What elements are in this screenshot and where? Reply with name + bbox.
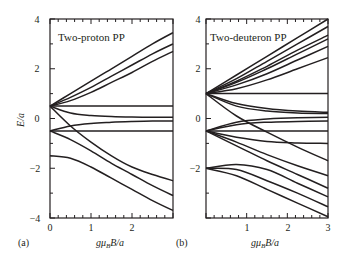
panel-a-ytick-4: 4 [35,14,40,25]
energy-level-figure: Two-proton PP 4 2 0 −2 −4 0 1 2 gμBB/a E… [0,0,347,262]
panel-a-ytick-0: 0 [35,113,40,124]
energy-level-line [206,168,328,217]
energy-level-line [206,131,328,188]
panel-a-xtick-1: 1 [89,222,94,233]
panel-b-ytick-4: 4 [196,14,201,25]
energy-level-line [50,131,173,196]
panel-b-title: Two-deuteron PP [210,31,287,43]
panel-a-ytick-2: 2 [35,63,40,74]
energy-level-line [50,121,173,131]
panel-a-chart: Two-proton PP 4 2 0 −2 −4 0 1 2 gμBB/a E… [15,14,173,250]
y-axis-label: E/a [15,113,26,128]
panel-a-ytick-neg4: −4 [30,213,41,224]
panel-a-xlabel: gμBB/a [96,237,124,250]
panel-b-xtick-2: 2 [286,222,291,233]
panel-a-ytick-neg2: −2 [30,163,41,174]
panel-b-energy-lines [206,19,328,217]
energy-level-line [50,33,173,106]
panel-a-title: Two-proton PP [58,31,125,43]
energy-level-line [206,94,328,113]
panel-b-ytick-neg2: −2 [190,163,201,174]
panel-b-xlabel: gμBB/a [251,237,279,250]
panel-a-energy-lines [50,33,173,211]
panel-b-xtick-1: 1 [245,222,250,233]
panel-a-xtick-2: 2 [130,222,135,233]
energy-level-line [50,106,173,117]
panel-b-letter: (b) [176,237,188,249]
panel-a-frame [50,19,173,218]
energy-level-line [206,168,328,207]
panel-a-xtick-0: 0 [48,222,53,233]
panel-b-chart: Two-deuteron PP 4 2 0 −2 1 2 3 gμBB/a (b… [176,14,331,250]
energy-level-line [50,44,173,106]
energy-level-line [206,94,328,114]
panel-b-ytick-2: 2 [196,63,201,74]
panel-b-xtick-3: 3 [326,222,331,233]
energy-level-line [206,117,328,131]
panel-a-ticks [50,19,173,218]
panel-b-ytick-0: 0 [196,113,201,124]
panel-a-letter: (a) [18,237,29,249]
